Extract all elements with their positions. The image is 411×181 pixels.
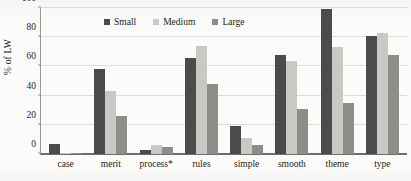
legend-label: Medium [163,17,195,27]
y-tick-label: 60 [27,51,37,61]
bar [207,84,218,154]
x-axis-category-label: case [57,159,73,169]
bar [196,46,207,154]
bar [286,61,297,154]
x-axis-category-label: simple [234,159,259,169]
bar-cluster [275,8,308,154]
legend-swatch-icon [212,19,218,25]
bar [332,47,343,154]
x-axis-category-label: process* [140,159,173,169]
bar [116,116,127,154]
bar-group: theme [315,8,360,154]
bar [388,55,399,154]
bar [241,138,252,154]
x-axis-category-label: merit [101,159,121,169]
bar [71,153,82,154]
chart-legend: SmallMediumLarge [104,17,244,27]
legend-item: Large [212,17,244,27]
bar-cluster [49,8,82,154]
y-tick-label: 40 [27,81,37,91]
bar-group: merit [88,8,133,154]
bar-chart-figure: % of LW 020406080100 casemeritprocess*ru… [0,0,411,181]
bar [49,144,60,154]
bar-cluster [140,8,173,154]
bar [252,145,263,154]
bar-cluster [366,8,399,154]
bar [366,36,377,154]
bar-cluster [94,8,127,154]
bar-group: type [360,8,405,154]
bar [230,126,241,154]
bar [151,145,162,154]
x-axis-category-label: theme [326,159,349,169]
legend-item: Small [104,17,136,27]
y-tick-label: 100 [22,0,36,3]
bar-groups: casemeritprocess*rulessimplesmooththemet… [41,8,407,154]
y-tick-label: 0 [31,139,36,149]
x-axis-category-label: type [374,159,390,169]
bar [275,55,286,154]
bar [377,33,388,154]
bar-group: case [43,8,88,154]
legend-swatch-icon [153,19,159,25]
plot-frame: 020406080100 casemeritprocess*rulessimpl… [40,8,407,155]
bar-cluster [185,8,218,154]
bar [343,103,354,154]
legend-item: Medium [153,17,195,27]
bar [60,153,71,154]
bar-cluster [321,8,354,154]
legend-label: Large [222,17,244,27]
bar [162,147,173,154]
bar-group: rules [179,8,224,154]
bar-group: smooth [269,8,314,154]
bar [185,58,196,154]
legend-label: Small [114,17,136,27]
plot-area: 020406080100 casemeritprocess*rulessimpl… [40,8,407,155]
bar-cluster [230,8,263,154]
x-axis-category-label: rules [192,159,210,169]
legend-swatch-icon [104,19,110,25]
bar [105,91,116,154]
y-axis-label: % of LW [3,26,13,88]
bar [321,9,332,154]
bar [297,109,308,154]
bar-group: simple [224,8,269,154]
bar-group: process* [134,8,179,154]
bar [140,150,151,154]
x-axis-category-label: smooth [278,159,306,169]
y-tick-label: 20 [27,110,37,120]
bar [94,69,105,154]
y-tick-label: 80 [27,22,37,32]
